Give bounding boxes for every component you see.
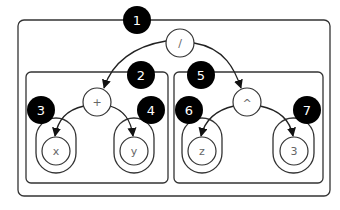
node-y-label: y bbox=[131, 145, 138, 158]
node-caret-label: ^ bbox=[242, 97, 251, 110]
badge-3: 3 bbox=[27, 96, 55, 124]
badge-5-label: 5 bbox=[197, 68, 205, 83]
node-3-label: 3 bbox=[291, 145, 298, 158]
edge-plus-to-y bbox=[110, 106, 133, 136]
node-plus-label: + bbox=[92, 96, 101, 109]
expression-tree-diagram: / + ^ x y z 3 1 2 5 3 4 bbox=[0, 0, 340, 210]
badge-4-label: 4 bbox=[147, 103, 155, 118]
badge-6: 6 bbox=[175, 96, 203, 124]
edge-plus-to-x bbox=[55, 106, 84, 136]
badge-4: 4 bbox=[137, 96, 165, 124]
node-z-label: z bbox=[199, 145, 205, 158]
node-y: y bbox=[120, 137, 148, 165]
badge-7-label: 7 bbox=[303, 103, 311, 118]
badge-3-label: 3 bbox=[37, 103, 45, 118]
node-root-label: / bbox=[178, 37, 182, 50]
node-plus: + bbox=[83, 88, 111, 116]
edge-caret-to-3 bbox=[260, 106, 293, 136]
badge-7: 7 bbox=[293, 96, 321, 124]
badge-2-label: 2 bbox=[137, 68, 145, 83]
badge-6-label: 6 bbox=[185, 103, 193, 118]
badge-5: 5 bbox=[187, 61, 215, 89]
badge-2: 2 bbox=[127, 61, 155, 89]
node-x: x bbox=[42, 137, 70, 165]
node-3: 3 bbox=[280, 137, 308, 165]
badge-1-label: 1 bbox=[133, 13, 141, 28]
node-root: / bbox=[166, 29, 194, 57]
node-x-label: x bbox=[53, 145, 60, 158]
node-z: z bbox=[188, 137, 216, 165]
edge-caret-to-z bbox=[201, 106, 234, 136]
badge-1: 1 bbox=[123, 6, 151, 34]
node-caret: ^ bbox=[233, 88, 261, 116]
